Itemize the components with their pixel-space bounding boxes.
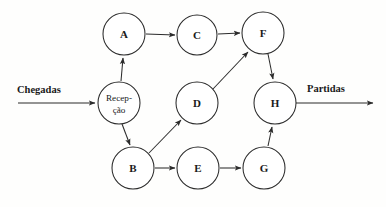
node-f-label: F <box>260 27 267 39</box>
arrivals-label: Chegadas <box>17 84 61 95</box>
node-d-label: D <box>193 97 201 109</box>
departures-label: Partidas <box>307 83 345 94</box>
edge-a-to-c <box>146 34 175 35</box>
node-h[interactable]: H <box>254 82 296 124</box>
edge-g-to-h <box>268 127 272 146</box>
node-g-label: G <box>260 162 269 174</box>
edge-d-to-f <box>213 52 248 89</box>
edge-b-to-d <box>149 120 181 153</box>
node-g[interactable]: G <box>243 147 285 189</box>
node-reception-label-line1: Recep- <box>106 93 132 103</box>
node-reception-label-line2: ção <box>113 105 126 115</box>
node-reception[interactable]: Recep- ção <box>98 82 140 124</box>
node-c-label: C <box>193 29 201 41</box>
node-d[interactable]: D <box>176 82 218 124</box>
edge-f-to-h <box>268 54 273 79</box>
node-a-label: A <box>120 28 128 40</box>
node-a[interactable]: A <box>103 13 145 55</box>
node-e-label: E <box>194 162 201 174</box>
flow-diagram: Recep- ção A C F D H <box>0 0 386 207</box>
node-h-label: H <box>271 97 280 109</box>
edge-c-to-f <box>218 33 240 34</box>
node-b[interactable]: B <box>112 147 154 189</box>
edge-reception-to-b <box>122 124 130 145</box>
node-f[interactable]: F <box>242 12 284 54</box>
flow-diagram-canvas: Recep- ção A C F D H <box>0 0 386 207</box>
node-c[interactable]: C <box>177 15 217 55</box>
node-e[interactable]: E <box>177 147 219 189</box>
node-reception-circle[interactable] <box>98 82 140 124</box>
edge-reception-to-a <box>121 58 123 81</box>
node-b-label: B <box>129 162 137 174</box>
